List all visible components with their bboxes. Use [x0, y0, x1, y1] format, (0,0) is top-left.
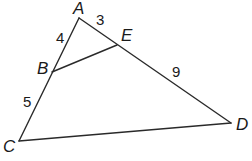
vertex-label-C: C [3, 137, 16, 156]
vertex-label-E: E [121, 26, 133, 45]
vertex-label-B: B [37, 59, 48, 78]
triangle-diagram: A B C D E 4 3 5 9 [0, 0, 252, 161]
length-label-ED: 9 [172, 63, 180, 80]
segment-BE [52, 45, 117, 72]
length-label-AB: 4 [56, 29, 64, 46]
length-label-AE: 3 [96, 11, 104, 28]
vertex-label-D: D [236, 115, 248, 134]
vertex-label-A: A [72, 0, 84, 18]
segment-AD [79, 18, 231, 123]
segment-CD [19, 123, 231, 141]
length-label-BC: 5 [23, 93, 31, 110]
segment-AC [19, 18, 79, 141]
